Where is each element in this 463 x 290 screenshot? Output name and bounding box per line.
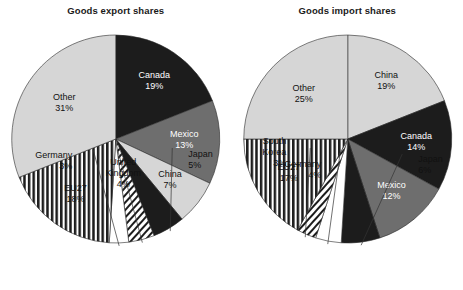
slice-value-label: 18% bbox=[66, 194, 84, 204]
pie-chart-import: China19%Canada14%Mexico12%Japan6%Germany… bbox=[232, 26, 463, 290]
slice-name-label: Kingdom bbox=[105, 168, 141, 178]
slice-name-label: Germany bbox=[35, 150, 73, 160]
panel-goods-export-shares: Goods export shares Canada19%Mexico13%Ch… bbox=[0, 0, 232, 290]
slice-name-label: Other bbox=[53, 92, 76, 102]
slice-name-label: Japan bbox=[188, 149, 213, 159]
slice-name-label: Mexico bbox=[170, 129, 199, 139]
slice-value-label: 14% bbox=[407, 142, 425, 152]
slice-value-label: 19% bbox=[145, 81, 163, 91]
pie-svg-import: China19%Canada14%Mexico12%Japan6%Germany… bbox=[232, 26, 463, 290]
slice-name-label: China bbox=[158, 169, 182, 179]
slice-value-label: 3% bbox=[59, 161, 72, 171]
panel-goods-import-shares: Goods import shares China19%Canada14%Mex… bbox=[232, 0, 463, 290]
slice-value-label: 19% bbox=[377, 81, 395, 91]
slice-name-label: Other bbox=[292, 83, 315, 93]
slice-value-label: 7% bbox=[163, 180, 176, 190]
slice-value-label: 4% bbox=[117, 179, 130, 189]
slice-name-label: EU27 bbox=[64, 183, 87, 193]
slice-value-label: 17% bbox=[279, 173, 297, 183]
slice-name-label: Canada bbox=[400, 131, 432, 141]
slice-name-label: China bbox=[374, 70, 398, 80]
slice-name-label: EU27 bbox=[277, 162, 300, 172]
goods-trade-shares-figure: Goods export shares Canada19%Mexico13%Ch… bbox=[0, 0, 463, 290]
slice-name-label: Japan bbox=[418, 154, 443, 164]
slice-name-label: Korea bbox=[262, 147, 286, 157]
slice-value-label: 31% bbox=[55, 103, 73, 113]
pie-svg-export: Canada19%Mexico13%China7%Japan5%UnitedKi… bbox=[0, 26, 232, 290]
slice-value-label: 25% bbox=[294, 94, 312, 104]
chart-title-import: Goods import shares bbox=[232, 5, 463, 16]
slice-name-label: Mexico bbox=[377, 180, 406, 190]
slice-value-label: 5% bbox=[188, 160, 201, 170]
pie-chart-export: Canada19%Mexico13%China7%Japan5%UnitedKi… bbox=[0, 26, 232, 290]
slice-name-label: United bbox=[110, 157, 136, 167]
chart-title-export: Goods export shares bbox=[0, 5, 232, 16]
slice-name-label: Canada bbox=[139, 70, 171, 80]
slice-value-label: 4% bbox=[308, 170, 321, 180]
slice-name-label: South bbox=[262, 136, 286, 146]
slice-value-label: 6% bbox=[418, 165, 431, 175]
